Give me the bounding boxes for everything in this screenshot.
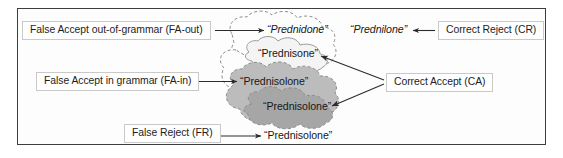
word-prednisolone-inner: “Prednisolone” bbox=[263, 101, 331, 112]
callout-false-accept-out-of-grammar: False Accept out-of-grammar (FA-out) bbox=[22, 21, 211, 40]
callout-false-reject: False Reject (FR) bbox=[124, 124, 221, 143]
word-prednidone: “Prednidone” bbox=[267, 24, 328, 35]
word-prednisone: “Prednisone” bbox=[258, 48, 318, 59]
word-prednisolone-outer: “Prednisolone” bbox=[240, 76, 308, 87]
callout-false-accept-in-grammar: False Accept in grammar (FA-in) bbox=[36, 72, 199, 91]
callout-correct-accept: Correct Accept (CA) bbox=[386, 73, 493, 92]
callout-correct-reject: Correct Reject (CR) bbox=[438, 21, 544, 40]
word-prednisolone-bottom: “Prednisolone” bbox=[264, 130, 332, 141]
arrow-ca-upper bbox=[321, 56, 384, 80]
arrow-ca-lower bbox=[332, 84, 384, 106]
diagram-canvas: “Prednidone” “Prednilone” “Prednisone” “… bbox=[0, 0, 563, 158]
word-prednilone: “Prednilone” bbox=[350, 24, 407, 35]
